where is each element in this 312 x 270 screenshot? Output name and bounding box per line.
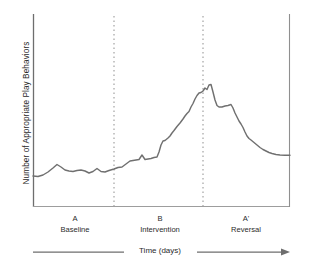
phase-letter-b: B [125,214,195,225]
phase-label-intervention: B Intervention [125,214,195,235]
phase-name-reversal: Reversal [211,225,281,236]
phase-letter-a: A [40,214,110,225]
plot-area [33,14,290,207]
phase-label-baseline: A Baseline [40,214,110,235]
phase-letter-a-prime: A' [211,214,281,225]
phase-label-reversal: A' Reversal [211,214,281,235]
y-axis-title: Number of Appropriate Play Behaviors [22,18,32,208]
x-axis-arrowhead-icon [281,249,290,256]
phase-name-baseline: Baseline [40,225,110,236]
aba-design-chart: Number of Appropriate Play Behaviors A B… [0,0,312,270]
phase-name-intervention: Intervention [125,225,195,236]
x-axis-title: Time (days) [126,246,194,255]
